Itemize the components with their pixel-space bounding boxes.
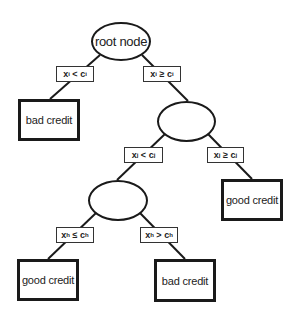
cond-const-sub: h — [169, 232, 173, 238]
leaf-bad-credit-top: bad credit — [18, 99, 80, 141]
cond-op: > — [156, 230, 161, 240]
cond-var-sub: h — [66, 232, 70, 238]
cond-var-sub: i — [155, 71, 157, 77]
cond-op: < — [72, 69, 77, 79]
leaf-label: bad credit — [26, 114, 72, 126]
split-node-h — [88, 180, 148, 221]
root-node-label: root node — [95, 34, 147, 49]
leaf-label: good credit — [22, 274, 74, 286]
cond-const-sub: i — [85, 71, 87, 77]
condition-root-right: xi ≥ ci — [143, 66, 181, 82]
root-node: root node — [91, 22, 151, 61]
condition-j-left: xj < cj — [124, 147, 163, 163]
leaf-good-credit-right: good credit — [221, 179, 283, 221]
leaf-label: good credit — [226, 194, 278, 206]
cond-var-sub: h — [150, 232, 154, 238]
cond-op: ≤ — [73, 230, 78, 240]
cond-var-sub: i — [68, 71, 70, 77]
cond-const-sub: i — [172, 71, 174, 77]
cond-const-sub: h — [85, 232, 89, 238]
condition-j-right: xj ≥ cj — [207, 147, 244, 163]
condition-h-left: xh ≤ ch — [56, 227, 94, 243]
cond-var-sub: j — [137, 152, 139, 158]
leaf-label: bad credit — [162, 275, 208, 287]
cond-var-sub: j — [219, 152, 221, 158]
cond-const-sub: j — [236, 152, 238, 158]
condition-h-right: xh > ch — [140, 227, 178, 243]
cond-op: < — [141, 150, 146, 160]
cond-op: ≥ — [160, 69, 165, 79]
cond-op: ≥ — [223, 150, 228, 160]
leaf-bad-credit-bottom: bad credit — [154, 259, 216, 302]
condition-root-left: xi < ci — [56, 66, 94, 82]
split-node-j — [157, 101, 216, 142]
cond-const-sub: j — [154, 152, 156, 158]
leaf-good-credit-bottom: good credit — [17, 259, 79, 301]
